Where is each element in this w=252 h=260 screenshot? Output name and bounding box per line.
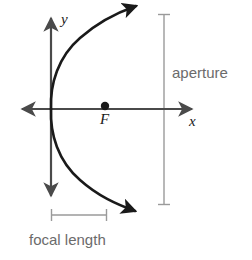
focal-length-label: focal length: [29, 231, 106, 248]
focus-point: [101, 102, 109, 110]
parabola-lower-branch: [51, 109, 135, 211]
y-axis-label: y: [59, 11, 68, 27]
x-axis-label: x: [188, 113, 196, 129]
focal-length-measure: [51, 209, 107, 221]
focus-label: F: [99, 111, 110, 127]
aperture-label: aperture: [172, 64, 228, 81]
figure-canvas: y x F aperture focal length: [0, 0, 252, 260]
parabola-figure: y x F aperture focal length: [0, 0, 252, 260]
